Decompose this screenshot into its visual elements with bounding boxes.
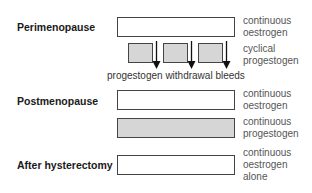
progestogen-cycle-box-2 [163,43,188,63]
progestogen-cycle-box-3 [198,43,223,63]
post-progestogen-bar [117,118,235,138]
withdrawal-bleeds-label: progestogen withdrawal bleeds [107,70,245,81]
withdrawal-arrow-icon-2 [187,41,196,69]
hyst-oestrogen-bar [117,155,235,175]
peri-oestrogen-note: continuous oestrogen [243,15,291,39]
progestogen-cycle-box-1 [128,43,153,63]
postmenopause-label: Postmenopause [17,95,98,107]
hyst-oestrogen-note: continuous oestrogen alone [243,147,291,183]
post-oestrogen-note: continuous oestrogen [243,88,291,112]
peri-progestogen-note: cyclical progestogen [243,43,299,67]
post-oestrogen-bar [117,90,235,110]
post-progestogen-note: continuous progestogen [243,116,299,140]
hysterectomy-label: After hysterectomy [17,159,113,171]
perimenopause-label: Perimenopause [17,21,95,33]
withdrawal-arrow-icon-1 [152,41,161,69]
peri-oestrogen-bar [117,17,235,37]
withdrawal-arrow-icon-3 [222,41,231,69]
